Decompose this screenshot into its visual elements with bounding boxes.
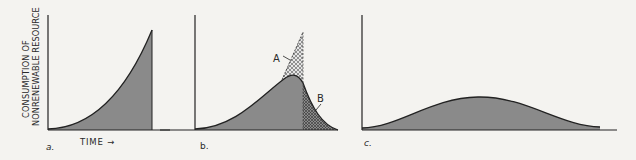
panel-a-area bbox=[48, 30, 152, 130]
panel-b: A B b. bbox=[160, 15, 338, 151]
annotation-b: B bbox=[317, 93, 324, 104]
panel-a: CONSUMPTION OF NONRENEWABLE RESOURCE TIM… bbox=[21, 7, 170, 152]
panel-b-label: b. bbox=[200, 141, 209, 151]
panel-c: c. bbox=[362, 15, 617, 148]
panel-a-label: a. bbox=[46, 142, 54, 152]
y-axis-label-line2: NONRENEWABLE RESOURCE bbox=[31, 7, 41, 126]
figure-canvas: CONSUMPTION OF NONRENEWABLE RESOURCE TIM… bbox=[0, 0, 636, 160]
annotation-b-arrow bbox=[316, 104, 321, 110]
annotation-a-arrow bbox=[283, 56, 290, 60]
y-axis-label-line1: CONSUMPTION OF bbox=[21, 40, 31, 118]
region-b bbox=[303, 83, 338, 130]
annotation-a: A bbox=[273, 53, 280, 64]
panel-c-area bbox=[362, 97, 600, 130]
panel-c-label: c. bbox=[364, 138, 372, 148]
x-axis-label: TIME → bbox=[79, 137, 115, 147]
panel-b-area bbox=[195, 75, 303, 130]
